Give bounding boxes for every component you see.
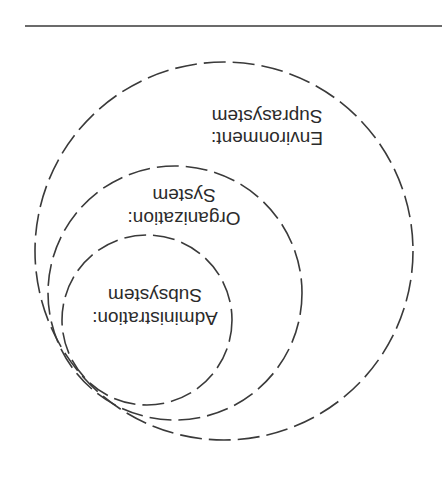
organization-label: Organization: System (127, 185, 240, 229)
environment-label-line1: Environment: (211, 128, 323, 149)
nested-systems-diagram: Environment: Suprasystem Organization: S… (0, 0, 442, 481)
organization-label-line2: System (152, 185, 215, 206)
administration-label: Administration: Subsystem (92, 285, 218, 329)
administration-label-line2: Subsystem (108, 285, 202, 306)
environment-label: Environment: Suprasystem (211, 106, 323, 149)
environment-label-line2: Suprasystem (212, 106, 323, 127)
organization-label-line1: Organization: (127, 208, 240, 229)
administration-label-line1: Administration: (92, 308, 218, 329)
